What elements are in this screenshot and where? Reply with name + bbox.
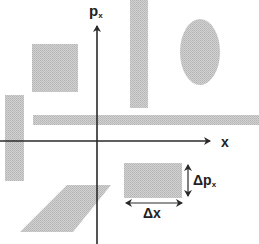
delta-p-subscript: x [212, 180, 216, 189]
phase-space-diagram [0, 0, 259, 244]
horizontal-strip [33, 115, 259, 125]
px-axis-label: px [89, 2, 103, 20]
left-vertical-bar [5, 95, 24, 181]
delta-p-main: Δp [193, 172, 212, 188]
upper-left-square [32, 44, 78, 92]
px-label-subscript: x [98, 11, 102, 20]
upper-vertical-bar [130, 0, 148, 108]
x-axis-label: x [221, 134, 229, 150]
upper-right-ellipse [180, 19, 220, 85]
delta-x-label: Δx [143, 205, 161, 221]
reference-cell-dx-dp [124, 163, 182, 198]
px-label-main: p [89, 2, 98, 19]
delta-p-label: Δpx [193, 172, 216, 189]
